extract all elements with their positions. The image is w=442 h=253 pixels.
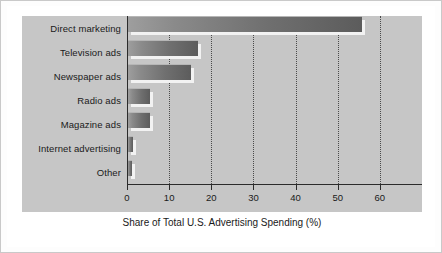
bar-fill <box>128 40 198 56</box>
category-axis-labels: Direct marketing Television ads Newspape… <box>22 16 127 184</box>
bar-fill <box>128 136 133 152</box>
x-tick-label: 60 <box>375 192 386 203</box>
bar-series <box>128 16 422 184</box>
x-tick <box>211 185 212 190</box>
x-tick <box>253 185 254 190</box>
plot-panel: Direct marketing Television ads Newspape… <box>22 16 422 212</box>
x-tick-label: 0 <box>124 192 129 203</box>
bar-fill <box>128 112 150 128</box>
category-label: Television ads <box>22 40 127 64</box>
x-axis-line <box>127 184 422 185</box>
category-label: Other <box>22 160 127 184</box>
x-tick-label: 10 <box>164 192 175 203</box>
bar-fill <box>128 64 191 80</box>
x-tick-label: 20 <box>206 192 217 203</box>
x-tick <box>380 185 381 190</box>
x-axis-title: Share of Total U.S. Advertising Spending… <box>22 217 422 228</box>
category-label: Newspaper ads <box>22 64 127 88</box>
x-tick <box>296 185 297 190</box>
x-tick <box>127 185 128 190</box>
chart-figure: Direct marketing Television ads Newspape… <box>0 0 442 253</box>
bar-fill <box>128 160 132 176</box>
x-tick-label: 30 <box>248 192 259 203</box>
category-label: Radio ads <box>22 88 127 112</box>
x-tick <box>169 185 170 190</box>
x-tick <box>338 185 339 190</box>
category-label: Magazine ads <box>22 112 127 136</box>
x-tick-label: 50 <box>332 192 343 203</box>
x-tick-label: 40 <box>290 192 301 203</box>
category-label: Internet advertising <box>22 136 127 160</box>
plot-area <box>127 16 422 184</box>
category-label: Direct marketing <box>22 16 127 40</box>
bar-fill <box>128 88 150 104</box>
bar-fill <box>128 16 362 32</box>
